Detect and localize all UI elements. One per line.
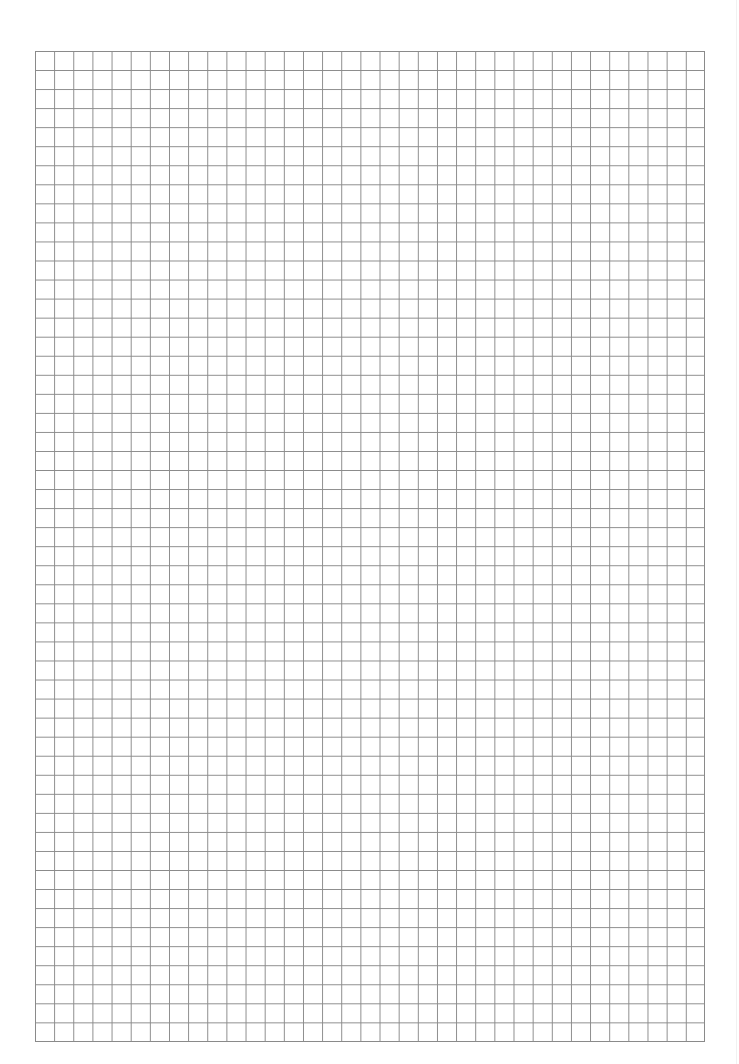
page-edge (736, 0, 737, 1064)
graph-grid (35, 51, 705, 1042)
graph-paper-page (0, 0, 739, 1064)
